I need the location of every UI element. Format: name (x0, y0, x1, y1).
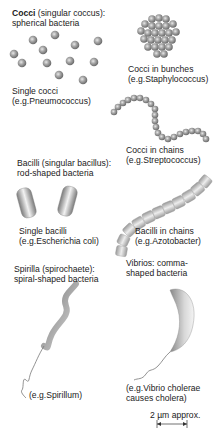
vibrios-subheading: shaped bacteria (126, 268, 187, 279)
scale-bar-label: 2 µm approx. (150, 410, 200, 421)
cocci-bunch-label: Cocci in bunches (128, 64, 193, 75)
cocci-chain-example: (e.g.Streptococcus) (126, 155, 201, 166)
vibrio-illustration (134, 289, 194, 380)
cocci-bunch-example: (e.g.Staphylococcus) (128, 74, 208, 85)
bacilli-chain-example: (e.g.Azotobacter) (135, 236, 201, 247)
single-bacilli-illustration (15, 185, 78, 220)
bacilli-heading: Bacilli (singular bacillus): (17, 158, 111, 169)
single-cocci-illustration (10, 31, 103, 85)
bacilli-chain-label: Bacilli in chains (135, 226, 194, 237)
vibrios-example-line2: causes cholera) (126, 393, 187, 404)
spirilla-subheading: spiral-shaped bacteria (14, 274, 99, 285)
single-cocci-example: (e.g.Pneumococcus) (12, 96, 91, 107)
single-bacilli-label: Single bacilli (19, 226, 67, 237)
spirillum-illustration (21, 284, 76, 398)
single-cocci-label: Single cocci (12, 86, 58, 97)
vibrios-example-line1: (e.g.Vibrio cholerae (126, 383, 200, 394)
vibrios-heading: Vibrios: comma- (126, 258, 188, 269)
single-bacilli-example: (e.g.Escherichia coli) (19, 236, 99, 247)
cocci-chain-label: Cocci in chains (126, 145, 184, 156)
spirilla-example: (e.g.Spirillum) (29, 390, 82, 401)
cocci-chain-illustration (111, 95, 210, 143)
cocci-bunch-illustration (137, 14, 180, 58)
cocci-heading: Cocci (singular coccus): (12, 8, 105, 19)
spirilla-heading: Spirilla (spirochaete): (14, 264, 95, 275)
cocci-subheading: spherical bacteria (12, 18, 79, 29)
scale-bar (157, 420, 187, 428)
bacilli-subheading: rod-shaped bacteria (17, 168, 93, 179)
